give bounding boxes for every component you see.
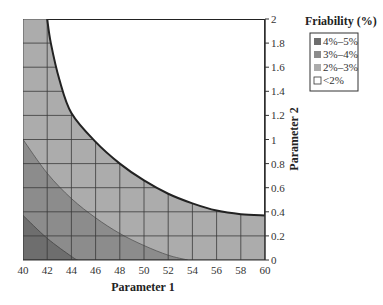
x-tick-label: 58 [235, 264, 247, 276]
y-tick-label: 1.4 [271, 85, 285, 97]
x-tick-label: 40 [18, 264, 30, 276]
x-tick-label: 56 [211, 264, 223, 276]
y-tick-label: 0.8 [271, 158, 285, 170]
y-tick-label: 0 [271, 254, 277, 266]
legend-title: Friability (%) [305, 14, 377, 28]
y-tick-label: 2 [271, 13, 277, 25]
x-tick-label: 42 [42, 264, 53, 276]
x-tick-label: 60 [260, 264, 272, 276]
legend-swatch-2-3 [314, 64, 321, 71]
legend-label-3-4: 3%–4% [323, 48, 358, 60]
legend-swatch-3-4 [314, 51, 321, 58]
y-tick-label: 0.6 [271, 182, 285, 194]
y-tick-label: 1.8 [271, 37, 285, 49]
legend-swatch-lt2 [314, 77, 321, 84]
y-tick-label: 0.4 [271, 206, 285, 218]
x-tick-label: 44 [66, 264, 78, 276]
legend-label-4-5: 4%–5% [323, 35, 358, 47]
x-tick-label: 50 [139, 264, 151, 276]
y-axis-title: Parameter 2 [287, 107, 301, 170]
contour-chart: 4042444648505254565860 00.20.40.60.811.2… [0, 0, 383, 305]
x-tick-label: 52 [163, 264, 174, 276]
y-tick-label: 0.2 [271, 230, 285, 242]
x-tick-label: 48 [114, 264, 126, 276]
legend-label-lt2: <2% [323, 74, 344, 86]
plot-area [23, 19, 265, 260]
y-tick-labels: 00.20.40.60.811.21.41.61.82 [265, 13, 285, 266]
legend: Friability (%) 4%–5% 3%–4% 2%–3% <2% [305, 14, 377, 91]
legend-swatch-4-5 [314, 38, 321, 45]
x-tick-label: 46 [90, 264, 102, 276]
x-tick-labels: 4042444648505254565860 [18, 264, 272, 276]
y-tick-label: 1.6 [271, 61, 285, 73]
y-tick-label: 1.2 [271, 109, 285, 121]
y-tick-label: 1 [271, 134, 277, 146]
x-axis-title: Parameter 1 [111, 280, 174, 294]
legend-label-2-3: 2%–3% [323, 61, 358, 73]
x-tick-label: 54 [187, 264, 199, 276]
